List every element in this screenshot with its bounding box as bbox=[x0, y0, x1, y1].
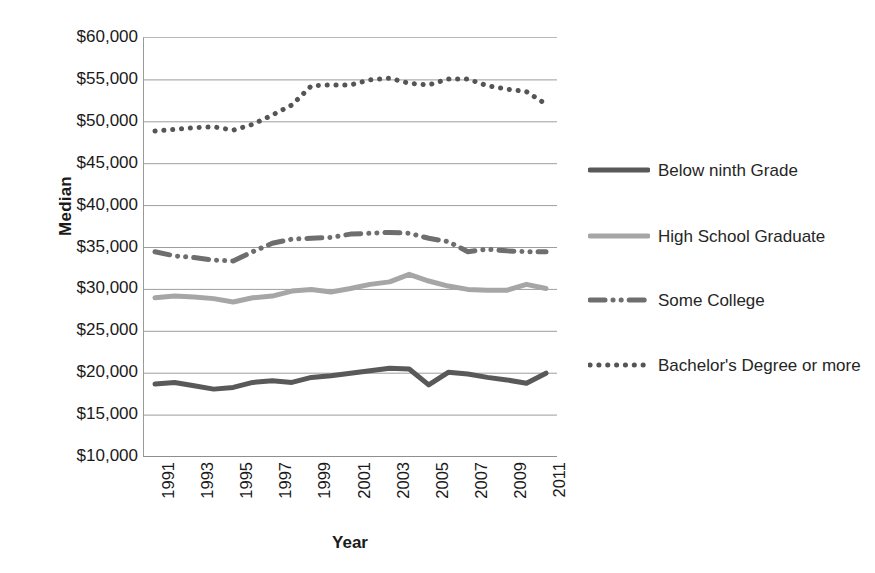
plot-svg bbox=[144, 38, 557, 457]
x-axis-tick-label: 1993 bbox=[199, 462, 216, 499]
legend-item-label: High School Graduate bbox=[658, 226, 825, 248]
series-line bbox=[155, 274, 546, 302]
x-axis-tick-label: 1991 bbox=[160, 462, 177, 499]
legend-item-label: Some College bbox=[658, 290, 765, 312]
y-axis-tick-label: $20,000 bbox=[34, 363, 138, 380]
x-axis-tick-label: 2009 bbox=[512, 462, 529, 499]
legend-item[interactable]: Below ninth Grade bbox=[588, 160, 872, 182]
y-axis-tick-label: $10,000 bbox=[34, 447, 138, 464]
x-axis-tick-label: 2001 bbox=[356, 462, 373, 499]
dash-dot-line-swatch bbox=[588, 290, 650, 310]
y-axis-tick-label: $50,000 bbox=[34, 112, 138, 129]
chart-container: Median $10,000$15,000$20,000$25,000$30,0… bbox=[0, 0, 875, 573]
legend-item-label: Bachelor's Degree or more bbox=[658, 355, 861, 377]
x-axis-tick-label: 2007 bbox=[473, 462, 490, 499]
legend-item[interactable]: Bachelor's Degree or more bbox=[588, 355, 872, 377]
y-axis-tick-label: $25,000 bbox=[34, 321, 138, 338]
dotted-line-swatch bbox=[588, 355, 650, 375]
y-axis-tick-label: $30,000 bbox=[34, 279, 138, 296]
y-axis-tick-labels: $10,000$15,000$20,000$25,000$30,000$35,0… bbox=[34, 37, 138, 457]
x-axis-title: Year bbox=[143, 533, 557, 553]
plot-area bbox=[143, 37, 557, 457]
x-axis-tick-labels: 1991199319951997199920012003200520072009… bbox=[143, 462, 563, 522]
legend-item[interactable]: High School Graduate bbox=[588, 226, 872, 248]
y-axis-tick-label: $55,000 bbox=[34, 70, 138, 87]
legend-item[interactable]: Some College bbox=[588, 290, 872, 312]
y-axis-tick-label: $15,000 bbox=[34, 405, 138, 422]
legend-item-label: Below ninth Grade bbox=[658, 160, 798, 182]
y-axis-tick-label: $40,000 bbox=[34, 196, 138, 213]
y-axis-tick-label: $45,000 bbox=[34, 154, 138, 171]
series-line bbox=[155, 232, 546, 260]
x-axis-tick-label: 1995 bbox=[238, 462, 255, 499]
y-axis-tick-label: $60,000 bbox=[34, 28, 138, 45]
solid-line-swatch bbox=[588, 160, 650, 180]
x-axis-tick-label: 2005 bbox=[434, 462, 451, 499]
x-axis-tick-label: 2011 bbox=[551, 462, 568, 497]
series-line bbox=[155, 78, 546, 131]
series-line bbox=[155, 368, 546, 389]
x-axis-tick-label: 1999 bbox=[316, 462, 333, 499]
gridlines bbox=[144, 80, 557, 415]
y-axis-tick-label: $35,000 bbox=[34, 238, 138, 255]
data-series-group bbox=[155, 78, 546, 389]
x-axis-tick-label: 1997 bbox=[277, 462, 294, 499]
solid-line-swatch bbox=[588, 226, 650, 246]
x-axis-tick-label: 2003 bbox=[395, 462, 412, 499]
